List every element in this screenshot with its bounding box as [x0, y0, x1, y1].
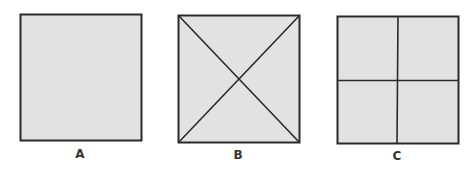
panel-c: [338, 17, 459, 144]
panel-a: [21, 15, 142, 141]
panel-b: [179, 16, 300, 143]
square-division-diagram: [0, 0, 471, 169]
label-a: A: [70, 147, 90, 161]
square-a: [21, 15, 142, 141]
label-c: C: [387, 149, 407, 163]
label-b: B: [228, 148, 248, 162]
